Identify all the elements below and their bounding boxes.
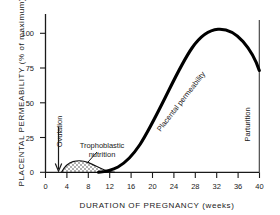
x-axis-title: DURATION OF PREGNANCY (weeks) (52, 201, 262, 210)
x-tick-label-4: 4 (58, 182, 76, 191)
x-tick-label-40: 40 (251, 182, 269, 191)
annotation-ovulation: Ovulation (55, 103, 64, 161)
y-axis-ticks (40, 33, 46, 172)
annotation-trophoblastic-line2: nutrition (66, 150, 138, 159)
x-tick-label-36: 36 (229, 182, 247, 191)
annotation-parturition: Parturition (243, 96, 252, 154)
x-tick-label-16: 16 (122, 182, 140, 191)
x-tick-label-8: 8 (79, 182, 97, 191)
x-tick-label-24: 24 (165, 182, 183, 191)
annotation-trophoblastic-line1: Trophoblastic (66, 141, 138, 150)
x-tick-label-12: 12 (101, 182, 119, 191)
x-tick-label-28: 28 (186, 182, 204, 191)
x-tick-label-20: 20 (144, 182, 162, 191)
x-tick-label-0: 0 (37, 182, 55, 191)
placental-permeability-chart: 100 75 50 25 0 0 4 8 12 16 20 24 28 32 3… (0, 0, 280, 215)
annotation-trophoblastic-nutrition: Trophoblastic nutrition (66, 141, 138, 159)
y-axis-title: PLACENTAL PERMEABILITY (% of maximum) (17, 17, 26, 187)
x-tick-label-32: 32 (208, 182, 226, 191)
x-axis-ticks (46, 172, 260, 178)
